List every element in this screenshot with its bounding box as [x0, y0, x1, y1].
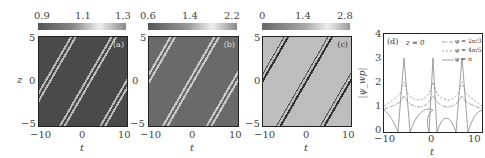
d-xtick-0: −10: [374, 134, 395, 144]
a-xtick-1: 0: [79, 130, 85, 140]
d-ytick-1: 1: [375, 101, 381, 111]
heatmap-a: (a): [38, 36, 128, 127]
cbar-b-tick-0: 0.6: [140, 11, 156, 21]
a-ytick-0: 5: [29, 33, 35, 43]
cbar-a-tick-0: 0.9: [34, 11, 50, 21]
d-xtick-2: 10: [468, 134, 481, 144]
a-ylabel: z: [17, 74, 22, 85]
legend-item-1: φ = 4π/5: [455, 46, 482, 53]
d-ytick-3: 3: [375, 53, 381, 63]
line-plot-d: (d) z = 0 φ = 2π/3 φ = 4π/5 φ = π: [383, 33, 483, 133]
d-ytick-2: 2: [375, 77, 381, 87]
c-xtick-1: 0: [303, 130, 309, 140]
c-xlabel: t: [304, 142, 308, 153]
cbar-c-tick-0: 0: [259, 11, 265, 21]
c-ytick-2: −5: [245, 119, 260, 129]
d-ylabel: |ψ_wp|: [357, 67, 367, 98]
cbar-c-tick-1: 1.4: [295, 11, 311, 21]
a-xtick-0: −10: [30, 130, 51, 140]
colorbar-a: [38, 23, 126, 30]
a-ytick-1: 0: [29, 76, 35, 86]
colorbar-b: [148, 23, 237, 30]
d-xtick-1: 0: [428, 134, 434, 144]
d-xlabel: t: [430, 146, 434, 157]
b-xtick-2: 10: [229, 130, 242, 140]
series-phi-pi: [384, 58, 482, 132]
cbar-a-tick-1: 1.1: [75, 11, 91, 21]
a-ytick-2: −5: [21, 119, 36, 129]
cbar-a-tick-2: 1.3: [115, 11, 131, 21]
cbar-b-tick-2: 2.2: [224, 11, 240, 21]
panel-label-a: (a): [113, 40, 124, 49]
c-ytick-0: 5: [254, 33, 260, 43]
b-xtick-0: −10: [140, 130, 161, 140]
c-ytick-1: 0: [254, 76, 260, 86]
b-xlabel: t: [190, 142, 194, 153]
c-xtick-0: −10: [254, 130, 275, 140]
b-xtick-1: 0: [189, 130, 195, 140]
b-ytick-1: 0: [132, 76, 138, 86]
series-phi-2pi3: [384, 96, 482, 109]
panel-label-b: (b): [224, 40, 235, 49]
panel-label-c: (c): [337, 40, 348, 49]
legend-item-2: φ = π: [455, 55, 472, 62]
annotation-z0: z = 0: [406, 39, 424, 47]
a-xlabel: t: [80, 142, 84, 153]
c-xtick-2: 10: [342, 130, 355, 140]
colorbar-c: [262, 23, 350, 30]
cbar-b-tick-1: 1.4: [182, 11, 198, 21]
heatmap-b: (b): [148, 36, 239, 127]
a-xtick-2: 10: [118, 130, 131, 140]
legend-item-0: φ = 2π/3: [455, 37, 482, 44]
cbar-c-tick-2: 2.8: [337, 11, 353, 21]
heatmap-c: (c): [262, 36, 352, 127]
d-ytick-4: 4: [375, 29, 381, 39]
b-ytick-0: 5: [140, 33, 146, 43]
panel-label-d: (d): [387, 37, 398, 46]
b-ytick-2: −5: [130, 119, 145, 129]
